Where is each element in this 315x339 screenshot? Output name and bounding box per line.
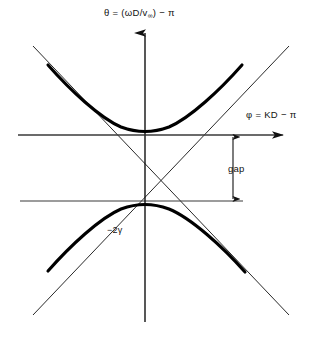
asymptote-group xyxy=(33,46,289,315)
y-axis-label: θ = (ωD/v∞) − π xyxy=(104,8,175,20)
y-axis-label-head: θ = (ωD/v xyxy=(104,7,148,18)
y-axis-label-tail: ) − π xyxy=(153,7,175,18)
coupling-label: −2γ xyxy=(107,226,122,235)
dispersion-diagram: θ = (ωD/v∞) − π φ = KD − π gap −2γ xyxy=(0,0,315,339)
hyperbola-group xyxy=(48,65,245,272)
gap-label: gap xyxy=(228,164,244,174)
figure-canvas xyxy=(0,0,315,339)
x-axis-label: φ = KD − π xyxy=(246,110,297,120)
